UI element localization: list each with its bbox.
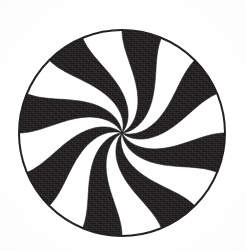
illustration-canvas: Pinwheel swirl disc Black and white pinw… [0, 0, 246, 251]
spiral-hub-dot [121, 132, 124, 135]
pinwheel-swirl-figure: Pinwheel swirl disc Black and white pinw… [0, 0, 246, 251]
